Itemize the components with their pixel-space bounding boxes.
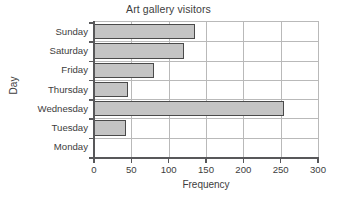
gridline-horizontal [94,80,318,81]
bar-friday [94,63,154,78]
chart-figure: Art gallery visitors SundaySaturdayFrida… [0,0,337,210]
y-axis-tick [89,61,94,63]
y-axis-title: Day [8,64,19,108]
y-axis-tick [89,80,94,82]
x-axis-label-100: 100 [149,164,189,175]
chart-title: Art gallery visitors [0,3,337,15]
y-axis-tick [89,22,94,24]
bar-thursday [94,82,128,97]
y-axis-label-tuesday: Tuesday [2,122,88,133]
gridline-horizontal [94,41,318,42]
gridline-vertical [281,22,282,157]
x-axis-tick [280,158,282,163]
x-axis-label-300: 300 [298,164,337,175]
gridline-horizontal [94,99,318,100]
bar-sunday [94,24,195,39]
gridline-vertical [206,22,207,157]
x-axis-label-0: 0 [74,164,114,175]
x-axis-label-200: 200 [223,164,263,175]
x-axis-tick [317,158,319,163]
y-axis-label-sunday: Sunday [2,26,88,37]
x-axis-tick [131,158,133,163]
plot-area [94,22,318,157]
x-axis-tick [93,158,95,163]
y-axis-tick [89,41,94,43]
x-axis-label-50: 50 [111,164,151,175]
x-axis-label-150: 150 [186,164,226,175]
x-axis-tick [243,158,245,163]
y-axis-tick [89,138,94,140]
gridline-horizontal [94,118,318,119]
x-axis-title: Frequency [94,179,318,190]
x-axis-tick [205,158,207,163]
y-axis-label-monday: Monday [2,141,88,152]
y-axis-tick [89,118,94,120]
bar-tuesday [94,120,126,135]
bar-saturday [94,43,184,58]
x-axis-label-250: 250 [261,164,301,175]
x-axis-tick [168,158,170,163]
gridline-vertical [243,22,244,157]
gridline-vertical [318,22,319,157]
y-axis-tick [89,99,94,101]
bar-wednesday [94,101,284,116]
y-axis-label-saturday: Saturday [2,45,88,56]
gridline-horizontal [94,138,318,139]
